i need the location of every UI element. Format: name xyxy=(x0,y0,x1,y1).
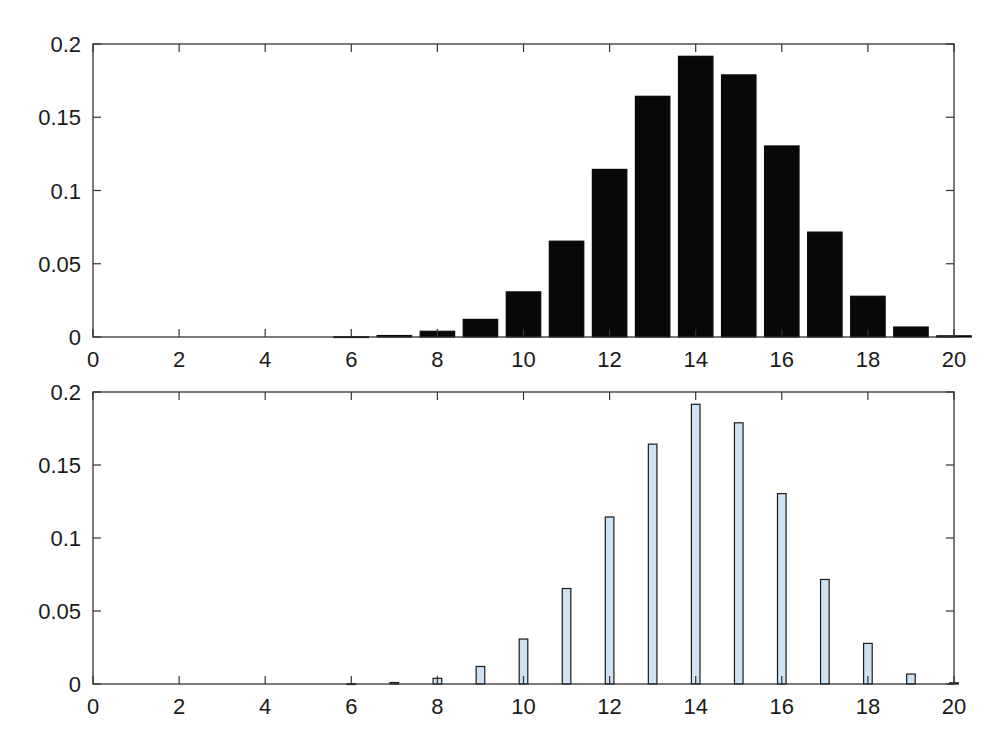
y-tick-label: 0.2 xyxy=(50,380,81,405)
bar xyxy=(808,232,842,337)
x-tick-label: 6 xyxy=(345,347,357,372)
bar xyxy=(635,96,669,337)
x-tick-label: 6 xyxy=(345,694,357,719)
bar xyxy=(894,327,928,337)
x-tick-label: 10 xyxy=(511,694,535,719)
x-tick-label: 10 xyxy=(511,347,535,372)
x-tick-label: 20 xyxy=(942,347,966,372)
x-tick-label: 4 xyxy=(259,347,271,372)
x-tick-label: 14 xyxy=(683,347,707,372)
bar xyxy=(549,241,583,337)
y-tick-label: 0.15 xyxy=(38,453,81,478)
x-tick-label: 2 xyxy=(173,347,185,372)
bottom-bar-chart: 0246810121416182000.050.10.150.2 xyxy=(38,380,966,719)
x-tick-label: 8 xyxy=(431,694,443,719)
bar xyxy=(691,404,700,684)
bar xyxy=(476,666,485,684)
chart-figure: 0246810121416182000.050.10.150.2 0246810… xyxy=(0,0,995,749)
bars xyxy=(334,56,971,337)
x-tick-label: 0 xyxy=(87,347,99,372)
y-tick-label: 0.2 xyxy=(50,32,81,57)
bar xyxy=(463,319,497,337)
top-bar-chart: 0246810121416182000.050.10.150.2 xyxy=(38,32,971,372)
y-axis: 00.050.10.150.2 xyxy=(38,380,954,697)
x-tick-label: 18 xyxy=(856,347,880,372)
bar xyxy=(722,75,756,337)
bars xyxy=(347,404,958,684)
y-tick-label: 0.1 xyxy=(50,179,81,204)
y-tick-label: 0 xyxy=(69,672,81,697)
y-tick-label: 0.05 xyxy=(38,599,81,624)
bar xyxy=(592,169,626,337)
y-tick-label: 0.1 xyxy=(50,526,81,551)
x-tick-label: 12 xyxy=(597,347,621,372)
x-tick-label: 4 xyxy=(259,694,271,719)
x-tick-label: 2 xyxy=(173,694,185,719)
x-tick-label: 18 xyxy=(856,694,880,719)
bar xyxy=(648,444,657,684)
bar xyxy=(907,674,916,684)
bar xyxy=(821,579,830,684)
x-tick-label: 0 xyxy=(87,694,99,719)
x-tick-label: 8 xyxy=(431,347,443,372)
x-tick-label: 20 xyxy=(942,694,966,719)
bar xyxy=(777,494,786,684)
x-tick-label: 12 xyxy=(597,694,621,719)
bar xyxy=(562,589,571,684)
y-tick-label: 0.05 xyxy=(38,252,81,277)
bar xyxy=(765,146,799,337)
x-tick-label: 14 xyxy=(683,694,707,719)
bar xyxy=(605,517,614,684)
y-tick-label: 0.15 xyxy=(38,105,81,130)
x-tick-label: 16 xyxy=(770,694,794,719)
bar xyxy=(678,56,712,337)
bar xyxy=(734,423,743,684)
y-tick-label: 0 xyxy=(69,325,81,350)
x-tick-label: 16 xyxy=(770,347,794,372)
